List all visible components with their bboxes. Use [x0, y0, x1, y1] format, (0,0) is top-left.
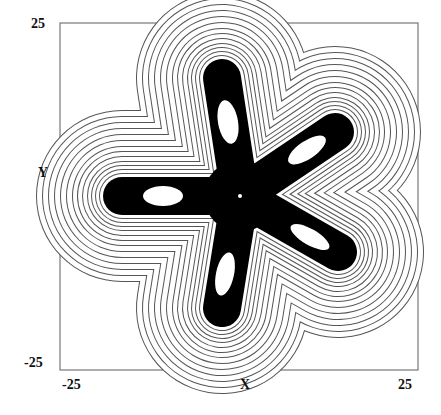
- contour-plot: [0, 0, 441, 415]
- x-tick-max: 25: [398, 377, 412, 393]
- y-axis-title: Y: [38, 165, 48, 181]
- y-tick-min: -25: [24, 355, 43, 371]
- center-point: [238, 194, 242, 198]
- y-tick-max: 25: [31, 16, 45, 32]
- x-tick-min: -25: [62, 377, 81, 393]
- x-axis-title: X: [240, 377, 250, 393]
